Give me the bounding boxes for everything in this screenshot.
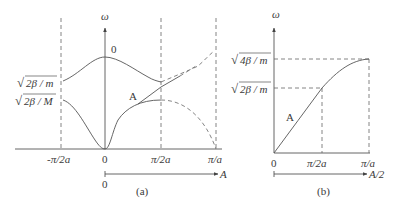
- a-acoustic-label: A: [129, 90, 137, 102]
- a-linear-extension: [180, 66, 196, 76]
- a-acoustic-branch-right: [105, 100, 161, 149]
- a-xtick-pi-a: π/a: [208, 153, 223, 165]
- a-ytick-lower: √ 2β / M: [15, 93, 56, 108]
- svg-text:2β / m: 2β / m: [26, 77, 54, 89]
- a-acoustic-branch-left: [63, 100, 105, 149]
- b-ytick-upper: √ 4β / m: [231, 52, 271, 67]
- b-xtick-pi-2a: π/2a: [307, 157, 327, 169]
- svg-text:√: √: [17, 75, 25, 90]
- a-optical-extension: [161, 52, 213, 82]
- svg-text:√: √: [231, 52, 239, 67]
- figure-a: ω 0 A √ 2β / m √ 2β / M -π/2a 0 π/2a π/a…: [15, 10, 227, 198]
- svg-text:√: √: [15, 93, 23, 108]
- a-optical-branch: [63, 57, 161, 82]
- svg-text:2β / m: 2β / m: [240, 83, 268, 95]
- b-secondary-axis-end: A/2: [368, 168, 385, 180]
- a-omega-label: ω: [101, 10, 109, 22]
- a-caption: (a): [136, 185, 149, 198]
- b-acoustic-label: A: [286, 111, 294, 123]
- a-ytick-upper: √ 2β / m: [17, 75, 57, 90]
- a-optical-label: 0: [111, 43, 117, 55]
- b-acoustic-curve: [274, 59, 369, 153]
- b-omega-label: ω: [272, 8, 280, 20]
- svg-text:4β / m: 4β / m: [240, 54, 268, 66]
- svg-text:2β / M: 2β / M: [24, 95, 54, 107]
- b-ytick-lower: √ 2β / m: [231, 81, 271, 96]
- a-xtick-0: 0: [102, 153, 108, 165]
- a-secondary-axis-origin: 0: [102, 178, 108, 190]
- a-xtick-minus-pi-2a: -π/2a: [47, 153, 71, 165]
- figure-b: ω A √ 4β / m √ 2β / m 0 π/2a π/a A/2 (b): [231, 8, 385, 198]
- a-secondary-axis-end: A: [219, 168, 227, 180]
- b-caption: (b): [317, 185, 330, 198]
- a-xtick-pi-2a: π/2a: [151, 153, 171, 165]
- b-xtick-0: 0: [271, 157, 277, 169]
- dispersion-diagram: ω 0 A √ 2β / m √ 2β / M -π/2a 0 π/2a π/a…: [0, 0, 396, 211]
- svg-text:√: √: [231, 81, 239, 96]
- a-acoustic-extension: [161, 100, 216, 149]
